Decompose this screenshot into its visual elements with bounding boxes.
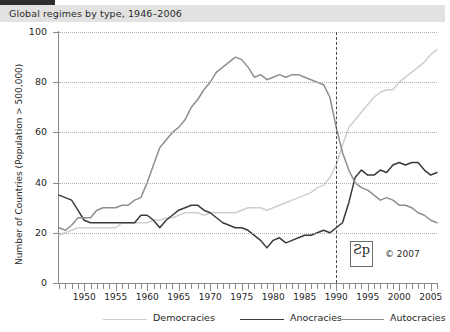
gridline-y (59, 32, 437, 33)
x-axis-tick (154, 284, 155, 289)
x-axis-tick (91, 284, 92, 289)
x-axis-tick (380, 284, 381, 289)
copyright-label: © 2007 (385, 249, 420, 259)
x-axis-tick (361, 284, 362, 289)
event-marker-line (336, 32, 337, 283)
chart-title-bar: Global regimes by type, 1946–2006 (0, 5, 445, 22)
x-axis-tick (387, 284, 388, 289)
gridline-y (59, 82, 437, 83)
y-axis-tick (53, 132, 59, 133)
y-axis-tick (53, 32, 59, 33)
x-axis-tick (179, 284, 180, 291)
y-axis-tick-label: 100 (17, 26, 47, 37)
x-axis-tick (343, 284, 344, 289)
x-axis-tick (128, 284, 129, 289)
x-axis-tick (210, 284, 211, 291)
x-axis-tick (349, 284, 350, 289)
y-axis-tick-label: 0 (17, 277, 47, 288)
legend-swatch-democracies (103, 319, 147, 320)
x-axis-tick (59, 284, 60, 289)
y-axis-tick-label: 40 (17, 177, 47, 188)
y-axis-tick-label: 80 (17, 76, 47, 87)
x-axis-tick (267, 284, 268, 289)
x-axis-tick (330, 284, 331, 289)
x-axis-tick (374, 284, 375, 289)
legend-label: Democracies (153, 312, 215, 323)
x-axis-tick (141, 284, 142, 289)
x-axis-tick (254, 284, 255, 289)
legend-swatch-anocracies (240, 319, 284, 320)
x-axis-tick (368, 284, 369, 291)
y-axis-tick (53, 233, 59, 234)
x-axis-tick (223, 284, 224, 289)
x-axis-tick (242, 284, 243, 291)
x-axis-tick (298, 284, 299, 289)
legend-swatch-autocracies (340, 319, 384, 320)
x-axis-tick (116, 284, 117, 291)
y-axis-tick (53, 82, 59, 83)
x-axis-tick (65, 284, 66, 289)
x-axis-tick (431, 284, 432, 291)
x-axis-tick (406, 284, 407, 289)
x-axis-tick (198, 284, 199, 289)
x-axis-tick (229, 284, 230, 289)
x-axis-tick (286, 284, 287, 289)
x-axis-tick (418, 284, 419, 289)
legend-label: Anocracies (290, 312, 342, 323)
gridline-y (59, 132, 437, 133)
x-axis-tick (437, 284, 438, 289)
gridline-y (59, 233, 437, 234)
chart-legend: DemocraciesAnocraciesAutocracies (0, 311, 445, 332)
x-axis-tick (135, 284, 136, 289)
series-line-anocracies (59, 163, 437, 248)
page-title: Global regimes by type, 1946–2006 (9, 8, 182, 19)
y-axis-tick-label: 60 (17, 126, 47, 137)
x-axis-tick (191, 284, 192, 289)
gridline-y (59, 183, 437, 184)
x-axis-tick (166, 284, 167, 289)
x-axis-tick (324, 284, 325, 289)
x-axis-tick (311, 284, 312, 289)
x-axis-tick (399, 284, 400, 291)
x-axis-tick (248, 284, 249, 289)
x-axis-tick (160, 284, 161, 289)
x-axis-tick-label: 2005 (411, 292, 450, 302)
series-layer (59, 32, 437, 283)
x-axis-tick (424, 284, 425, 289)
x-axis-tick (204, 284, 205, 289)
x-axis-tick (317, 284, 318, 289)
x-axis-tick (72, 284, 73, 289)
x-axis-tick (78, 284, 79, 289)
x-axis-tick (235, 284, 236, 289)
x-axis-tick (172, 284, 173, 289)
x-axis-tick (393, 284, 394, 289)
x-axis-tick (292, 284, 293, 289)
x-axis-tick (122, 284, 123, 289)
plot-area (59, 32, 437, 283)
x-axis-tick (273, 284, 274, 291)
title-divider (0, 22, 445, 23)
y-axis-tick-label: 20 (17, 227, 47, 238)
publisher-logo: Ƨp (350, 241, 373, 267)
x-axis-tick (412, 284, 413, 289)
x-axis-tick (103, 284, 104, 289)
x-axis-tick (97, 284, 98, 289)
logo-glyph: Ƨp (351, 242, 372, 266)
x-axis-tick (84, 284, 85, 291)
x-axis-tick (280, 284, 281, 289)
x-axis-tick (305, 284, 306, 291)
legend-label: Autocracies (390, 312, 446, 323)
x-axis-tick (147, 284, 148, 291)
x-axis-tick (261, 284, 262, 289)
x-axis-tick (109, 284, 110, 289)
x-axis-tick (217, 284, 218, 289)
y-axis-tick (53, 183, 59, 184)
x-axis-tick (355, 284, 356, 289)
x-axis-tick (336, 284, 337, 291)
x-axis-tick (185, 284, 186, 289)
